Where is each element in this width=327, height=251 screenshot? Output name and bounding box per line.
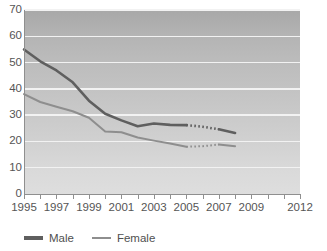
male-line-swatch [24,236,43,239]
y-tick-label: 40 [2,83,22,95]
x-tick [186,194,187,199]
x-tick [300,194,301,199]
legend-label-male: Male [49,232,74,244]
chart-legend: Male Female [24,229,155,247]
x-tick [170,194,171,199]
legend-item-male: Male [24,232,74,244]
line-chart: 706050403020100 199519971999200120032005… [0,0,327,251]
x-tick [73,194,74,199]
female-line-swatch [92,237,111,240]
y-tick-label: 50 [2,57,22,69]
male-line-solid [24,49,186,126]
y-axis-line [24,10,25,194]
x-tick [121,194,122,199]
x-tick-label: 2012 [280,201,320,214]
y-tick-label: 30 [2,109,22,121]
x-tick [105,194,106,199]
x-tick [284,194,285,199]
female-line-solid [24,94,186,147]
x-tick [235,194,236,199]
x-tick [251,194,252,199]
legend-item-female: Female [92,232,155,244]
x-axis-tick-labels: 199519971999200120032005200720092012 [0,201,327,217]
x-tick [24,194,25,199]
x-tick [203,194,204,199]
x-tick [56,194,57,199]
male-line-dotted [186,125,218,129]
y-axis-tick-labels: 706050403020100 [0,0,22,204]
series-layer [24,10,300,194]
legend-label-female: Female [117,232,155,244]
female-line-dotted [186,145,218,147]
x-tick [154,194,155,199]
x-tick [138,194,139,199]
x-tick [219,194,220,199]
male-line-solid-2 [219,129,235,133]
female-line-solid-2 [219,145,235,147]
x-tick [40,194,41,199]
y-tick-label: 70 [2,4,22,16]
x-tick [268,194,269,199]
x-tick-label: 2009 [231,201,271,214]
y-tick-label: 60 [2,30,22,42]
y-tick-label: 20 [2,135,22,147]
y-tick-label: 10 [2,162,22,174]
plot-area [24,10,300,194]
x-axis-ticks [0,194,327,200]
x-tick [89,194,90,199]
